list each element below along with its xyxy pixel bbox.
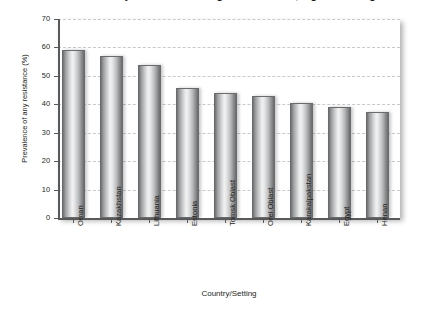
bar bbox=[328, 107, 351, 218]
bar bbox=[176, 88, 199, 218]
x-tick-mark bbox=[111, 220, 112, 223]
y-tick-label: 20 bbox=[16, 157, 50, 165]
x-tick-label: Estonia bbox=[190, 201, 199, 226]
y-tick-mark bbox=[54, 19, 58, 20]
gridline bbox=[58, 19, 400, 20]
x-tick-label: Karakalpakstan bbox=[304, 174, 313, 226]
x-tick-label: Egypt bbox=[342, 207, 351, 226]
y-tick-label: 50 bbox=[16, 72, 50, 80]
y-tick-mark bbox=[54, 76, 58, 77]
x-tick-mark bbox=[187, 220, 188, 223]
x-tick-mark bbox=[225, 220, 226, 223]
bar bbox=[62, 50, 85, 218]
y-tick-mark bbox=[54, 104, 58, 105]
x-tick-mark bbox=[339, 220, 340, 223]
x-tick-label: Oman bbox=[76, 205, 85, 226]
chart-title: Prevalence of any resistance among new T… bbox=[0, 0, 423, 1]
y-tick-label: 30 bbox=[16, 129, 50, 137]
y-tick-label: 10 bbox=[16, 186, 50, 194]
x-tick-label: Kazakhstan bbox=[114, 186, 123, 226]
x-tick-mark bbox=[263, 220, 264, 223]
y-tick-label: 0 bbox=[16, 214, 50, 222]
x-tick-label: Henan bbox=[380, 204, 389, 226]
chart-figure: Prevalence of any resistance among new T… bbox=[0, 0, 423, 318]
x-tick-label: Lithuania bbox=[152, 195, 161, 226]
y-tick-label: 70 bbox=[16, 15, 50, 23]
y-tick-mark bbox=[54, 190, 58, 191]
y-tick-mark bbox=[54, 47, 58, 48]
y-tick-mark bbox=[54, 161, 58, 162]
y-tick-mark bbox=[54, 133, 58, 134]
gridline bbox=[58, 47, 400, 48]
x-tick-mark bbox=[149, 220, 150, 223]
y-axis-line bbox=[58, 19, 60, 219]
bar bbox=[366, 112, 389, 218]
y-tick-label: 60 bbox=[16, 43, 50, 51]
x-tick-mark bbox=[73, 220, 74, 223]
y-tick-label: 40 bbox=[16, 100, 50, 108]
x-tick-label: Orel Oblast bbox=[266, 188, 275, 226]
x-tick-label: Tomsk Oblast bbox=[228, 180, 237, 226]
x-tick-mark bbox=[377, 220, 378, 223]
x-tick-mark bbox=[301, 220, 302, 223]
y-tick-mark bbox=[54, 218, 58, 219]
x-axis-title: Country/Setting bbox=[58, 289, 400, 298]
